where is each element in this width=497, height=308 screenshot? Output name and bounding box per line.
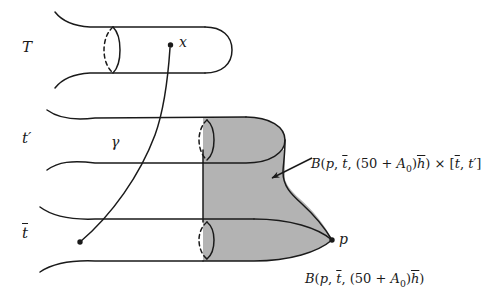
rf-fifty: 50 — [361, 156, 378, 171]
bottom-tube-lower-edge — [40, 261, 203, 272]
point-x — [168, 42, 173, 47]
gamma-label: γ — [111, 135, 119, 149]
bf-fifty: 50 — [355, 271, 372, 286]
bf-comma2: , — [341, 271, 349, 286]
ball-formula-label: B(p, t, (50 + A0)h) — [305, 272, 424, 288]
bf-B: B — [305, 271, 315, 286]
point-x-label: x — [179, 35, 187, 49]
rf-p: p — [326, 156, 334, 171]
point-p — [329, 237, 334, 242]
rf-A: A — [397, 156, 406, 171]
rf-comma2: , — [347, 156, 355, 171]
level-label-t-bar: t — [22, 226, 28, 241]
top-tube-section-front — [113, 27, 120, 73]
rf-times: × — [430, 156, 449, 171]
rf-B: B — [311, 156, 321, 171]
rf-comma1: , — [334, 156, 342, 171]
shaded-ball-region — [203, 117, 332, 261]
top-tube-right-cap — [205, 27, 232, 73]
level-label-t-bar-glyph: t — [22, 224, 28, 242]
figure-container: T t′ t x γ p B(p, t, (50 + A0)h) × [t, t… — [0, 0, 497, 308]
gamma-path — [80, 48, 170, 242]
level-label-t-prime: t′ — [22, 131, 31, 146]
middle-tube-upper-edge — [47, 110, 246, 119]
level-label-T: T — [22, 40, 32, 55]
bf-close: ) — [419, 271, 424, 286]
top-tube-section-back — [104, 27, 113, 73]
rf-comma3: , — [460, 156, 468, 171]
bf-A: A — [391, 271, 400, 286]
rf-bracket-close: ] — [476, 156, 481, 171]
top-tube-lower-edge — [55, 73, 205, 88]
bf-p: p — [320, 271, 328, 286]
bf-plus: + — [371, 271, 390, 286]
shade-wall — [203, 150, 285, 222]
top-tube-upper-edge — [55, 12, 205, 27]
bf-comma1: , — [328, 271, 336, 286]
region-formula-label: B(p, t, (50 + A0)h) × [t, t′] — [311, 157, 481, 173]
middle-tube-lower-edge — [47, 162, 203, 170]
point-p-label: p — [339, 232, 348, 246]
gamma-start-point — [77, 239, 82, 244]
rf-plus: + — [377, 156, 396, 171]
diagram-canvas — [0, 0, 497, 308]
top-tube — [55, 12, 232, 88]
